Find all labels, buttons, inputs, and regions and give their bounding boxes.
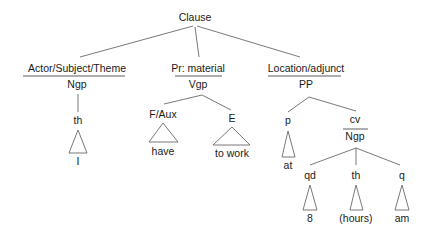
triangle-icon [69,130,87,153]
triangle-icon [303,185,317,210]
leaf-I: I [77,155,80,167]
node-clause: Clause [179,11,212,23]
node-f-aux: F/Aux [149,108,177,120]
function-label-location: Location/adjunct [268,62,345,74]
leaf-have: have [152,145,175,157]
leaf-8: 8 [307,212,313,224]
parse-tree-diagram: Clause Actor/Subject/Theme Ngp th I Pr: … [0,0,430,239]
node-th: th [74,114,83,126]
leaf-to-work: to work [215,147,250,159]
triangle-icon [282,131,295,157]
class-label-ngp-2: Ngp [345,130,364,142]
class-label-pp: PP [299,78,313,90]
class-label-vgp: Vgp [189,78,208,90]
node-e: E [228,112,235,124]
function-label-cv: cv [350,113,361,125]
constituent-location: Location/adjunct PP p at cv Ngp qd 8 th … [268,62,410,224]
triangle-icon [395,185,409,210]
leaf-at: at [284,159,293,171]
constituent-actor: Actor/Subject/Theme Ngp th I [23,62,126,167]
node-p: p [285,114,291,126]
node-q: q [399,169,405,181]
function-label-process: Pr: material [171,62,225,74]
root-branches [80,26,300,57]
class-label-ngp: Ngp [67,78,86,90]
constituent-process: Pr: material Vgp F/Aux have E to work [149,62,250,159]
triangle-icon [350,185,363,210]
leaf-am: am [395,212,410,224]
leaf-hours: (hours) [339,212,372,224]
node-qd: qd [304,169,316,181]
function-label-actor: Actor/Subject/Theme [28,62,126,74]
node-th-2: th [352,169,361,181]
triangle-icon [149,123,178,142]
triangle-icon [213,127,250,145]
